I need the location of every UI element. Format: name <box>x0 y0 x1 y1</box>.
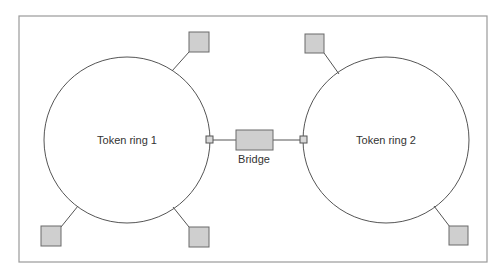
ring-2-station <box>449 226 468 245</box>
ring-1-station <box>189 32 209 52</box>
ring-2-station <box>305 34 324 53</box>
token-ring-diagram: Token ring 1 Token ring 2 Bridge <box>0 0 503 270</box>
ring-2-station-link <box>434 206 450 227</box>
ring-1-station <box>41 226 61 246</box>
ring-1-label: Token ring 1 <box>97 134 157 146</box>
bridge: Bridge <box>206 130 307 165</box>
token-ring-1: Token ring 1 <box>41 32 210 247</box>
bridge-port-ring-1 <box>206 136 213 143</box>
token-ring-2: Token ring 2 <box>303 34 469 245</box>
ring-2-station-link <box>324 53 339 74</box>
bridge-label: Bridge <box>238 153 270 165</box>
bridge-port-ring-2 <box>300 136 307 143</box>
ring-1-station-link <box>173 207 189 227</box>
ring-1-station-link <box>61 206 78 227</box>
bridge-box <box>236 130 273 150</box>
ring-1-station <box>189 227 209 247</box>
ring-2-label: Token ring 2 <box>356 134 416 146</box>
ring-1-station-link <box>172 52 189 71</box>
